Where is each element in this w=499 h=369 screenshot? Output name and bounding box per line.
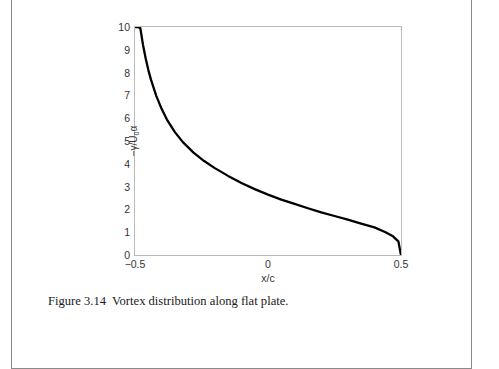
vortex-distribution-curve bbox=[135, 27, 401, 255]
y-tick-label: 8 bbox=[124, 67, 130, 78]
y-tick-label: 9 bbox=[124, 45, 130, 56]
y-axis-label-suffix: α bbox=[128, 126, 139, 132]
y-axis-label: −γ/U0α bbox=[128, 96, 140, 186]
x-axis-label: x/c bbox=[261, 272, 274, 284]
y-tick-label: 10 bbox=[118, 22, 130, 33]
figure-page: 10 9 8 7 6 5 4 3 2 1 0 −0.5 0 0.5 x/c −γ… bbox=[11, 0, 472, 369]
y-axis-label-subscript: 0 bbox=[133, 132, 140, 136]
figure-caption-text: Vortex distribution along flat plate. bbox=[112, 294, 288, 308]
curve-polyline bbox=[135, 27, 401, 255]
x-tick-label: 0.5 bbox=[394, 259, 409, 270]
y-tick-label: 2 bbox=[124, 204, 130, 215]
x-tick-label: −0.5 bbox=[125, 259, 146, 270]
chart-plot-area: 10 9 8 7 6 5 4 3 2 1 0 −0.5 0 0.5 x/c −γ… bbox=[134, 26, 402, 256]
y-tick-label: 1 bbox=[124, 227, 130, 238]
figure-caption-number: Figure 3.14 bbox=[48, 294, 106, 308]
figure-caption: Figure 3.14Vortex distribution along fla… bbox=[48, 294, 288, 309]
y-axis-label-prefix: −γ/U bbox=[128, 135, 139, 156]
x-tick-label: 0 bbox=[265, 259, 271, 270]
